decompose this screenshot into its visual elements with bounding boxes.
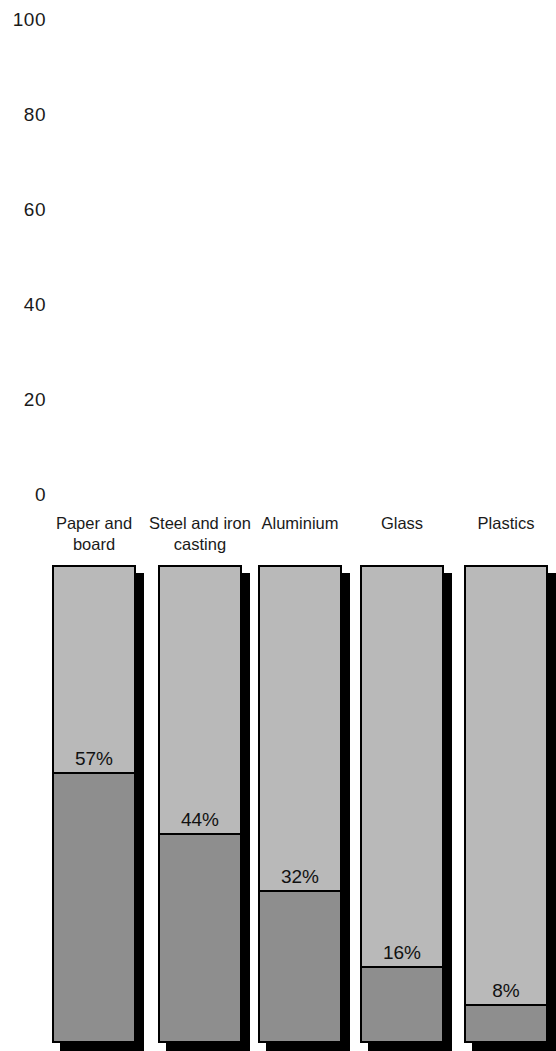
bar-glass: 16% (360, 565, 444, 1043)
bar-plastics: 8% (464, 565, 548, 1043)
x-tick-label-glass: Glass (352, 513, 452, 534)
x-tick-label-paper-and-board: Paper and board (44, 513, 144, 554)
bar-value-steel-and-iron-casting: 44% (160, 810, 240, 829)
bar-value-plastics: 8% (466, 981, 546, 1000)
bar-steel-and-iron-casting: 44% (158, 565, 242, 1043)
x-tick-label-line-1: Paper and (44, 513, 144, 534)
bar-aluminium: 32% (258, 565, 342, 1043)
x-tick-label-line-1: Aluminium (250, 513, 350, 534)
bar-paper-and-board: 57% (52, 565, 136, 1043)
x-tick-label-line-1: Plastics (456, 513, 556, 534)
bar-value-glass: 16% (362, 943, 442, 962)
bar-fill-glass (362, 966, 442, 1041)
x-tick-label-line-2: board (44, 534, 144, 555)
bar-fill-paper-and-board (54, 772, 134, 1041)
bar-fill-aluminium (260, 890, 340, 1041)
x-tick-label-aluminium: Aluminium (250, 513, 350, 534)
bar-fill-plastics (466, 1004, 546, 1041)
bar-fill-steel-and-iron-casting (160, 833, 240, 1041)
x-tick-label-line-1: Glass (352, 513, 452, 534)
bar-value-paper-and-board: 57% (54, 749, 134, 768)
x-tick-label-line-1: Steel and iron (144, 513, 256, 534)
bar-value-aluminium: 32% (260, 867, 340, 886)
x-tick-label-steel-and-iron-casting: Steel and iron casting (144, 513, 256, 554)
x-tick-label-plastics: Plastics (456, 513, 556, 534)
x-tick-label-line-2: casting (144, 534, 256, 555)
